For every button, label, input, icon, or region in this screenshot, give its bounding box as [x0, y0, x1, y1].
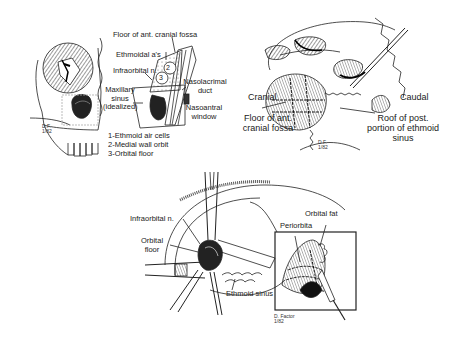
- label-nasolacrimal-duct: Nasolacrimal duct: [183, 78, 227, 95]
- label-floor-ant-cranial-fossa: Floor of ant. cranial fossa: [113, 31, 197, 40]
- label-orbital-floor: Orbital floor: [137, 237, 167, 254]
- label-infraorbital-nerve: Infraorbital n.: [113, 67, 157, 76]
- legend-item: 1-Ethmoid air cells: [108, 131, 170, 140]
- label-periorbita: Periorbita: [280, 222, 312, 231]
- anatomical-illustrations: [0, 0, 459, 338]
- artist-signature: D.F. 1/82: [318, 140, 328, 150]
- region-number-2: 2: [166, 64, 170, 73]
- legend-item: 3-Orbital floor: [108, 149, 170, 158]
- label-caudal: Caudal: [400, 92, 429, 102]
- label-ethmoidal-arteries: Ethmoidal a's: [116, 51, 161, 60]
- legend-item: 2-Medial wall orbit: [108, 140, 170, 149]
- label-infraorbital-nerve-surgical: Infraorbital n.: [130, 215, 174, 224]
- label-ethmoid-sinus: Ethmoid sinus: [226, 290, 273, 299]
- region-number-3: 3: [159, 74, 163, 83]
- label-cranial: Cranial: [248, 92, 277, 102]
- inset-diagram: [250, 202, 356, 320]
- label-maxillary-sinus: Maxillary sinus (idealized): [103, 86, 137, 112]
- label-orbital-fat: Orbital fat: [305, 210, 338, 219]
- label-floor-ant-cranial-fossa-lateral: Floor of ant. cranial fossa: [238, 113, 298, 133]
- label-roof-post-ethmoid: Roof of post. portion of ethmoid sinus: [363, 113, 443, 143]
- label-nasoantral-window: Nasoantral window: [184, 104, 224, 121]
- legend: 1-Ethmoid air cells 2-Medial wall orbit …: [108, 131, 170, 158]
- skull-frontal-diagram: [30, 38, 102, 156]
- artist-signature: D. Factor 1/82: [274, 314, 295, 324]
- artist-signature: D.F. 1/82: [42, 124, 52, 134]
